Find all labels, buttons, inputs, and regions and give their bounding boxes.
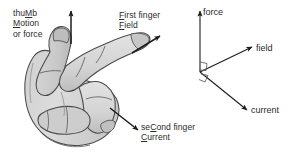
first-finger-label-suffix: irst finger [124,10,160,20]
first-finger-label: First finger Field [119,10,160,31]
thumb-nail [53,28,69,43]
thumb-label-line2: Motion [13,18,43,28]
second-finger-label-line1: seCond finger [141,122,195,132]
second-finger-label: seCond finger Current [141,122,195,143]
field-vector-arrow [200,47,252,72]
thumb-label: thuMb Motion or force [13,8,43,39]
flemings-left-hand-rule-figure: thuMb Motion or force First finger Field… [0,0,300,157]
thumb-label-prefix: thu [13,8,25,18]
vector-triad-diagram [199,11,252,110]
thumb-label-line1: thuMb [13,8,43,18]
second-finger-label-suffix: ond finger [156,122,195,132]
field-label-suffix: ield [124,20,138,30]
hand-illustration [25,27,150,147]
second-finger-label-line2: Current [141,132,195,142]
motion-label-suffix: otion [20,18,39,28]
thumb-label-suffix: b [32,8,37,18]
first-finger-label-line2: Field [119,20,160,30]
first-finger-label-line1: First finger [119,10,160,20]
current-vector-label: current [251,105,279,115]
thumb-label-line3: or force [13,29,43,39]
right-angle-marker-force-field [200,62,208,71]
force-vector-label: force [203,7,223,17]
second-finger-label-prefix: se [141,122,150,132]
current-label-suffix: urrent [147,132,170,142]
middle-fingertip-nail [101,120,115,133]
field-vector-label: field [256,43,273,53]
